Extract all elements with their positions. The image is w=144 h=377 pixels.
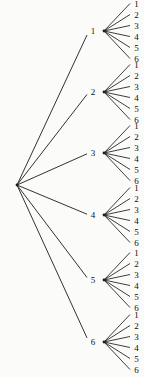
leaf-label-5-3: 3 xyxy=(134,270,139,280)
leaf-label-6-4: 4 xyxy=(134,343,139,353)
leaf-label-4-6: 6 xyxy=(134,238,139,248)
leaf-label-1-1: 1 xyxy=(134,0,139,9)
branch-label-1: 1 xyxy=(91,26,96,36)
leaf-label-6-1: 1 xyxy=(134,310,139,320)
leaf-label-5-2: 2 xyxy=(134,259,139,269)
leaf-label-6-3: 3 xyxy=(134,332,139,342)
leaf-label-4-5: 5 xyxy=(134,227,139,237)
leaf-label-5-1: 1 xyxy=(134,248,139,258)
root-branch-edge-1 xyxy=(17,35,87,185)
leaf-label-2-2: 2 xyxy=(134,71,139,81)
leaf-label-1-3: 3 xyxy=(134,21,139,31)
branch-label-4: 4 xyxy=(91,210,96,220)
leaf-label-4-3: 3 xyxy=(134,205,139,215)
leaf-label-2-3: 3 xyxy=(134,82,139,92)
leaf-label-3-2: 2 xyxy=(134,132,139,142)
root-branch-edge-2 xyxy=(17,94,87,185)
leaf-label-2-5: 5 xyxy=(134,104,139,114)
root-branch-edge-5 xyxy=(17,185,87,278)
leaf-label-6-2: 2 xyxy=(134,321,139,331)
leaf-label-1-4: 4 xyxy=(134,32,139,42)
branch-label-6: 6 xyxy=(91,337,96,347)
branch-label-5: 5 xyxy=(91,275,96,285)
leaf-label-3-3: 3 xyxy=(134,143,139,153)
leaf-label-3-1: 1 xyxy=(134,121,139,131)
root-branch-edge-3 xyxy=(17,154,87,185)
leaf-label-6-6: 6 xyxy=(134,365,139,375)
leaf-label-4-4: 4 xyxy=(134,216,139,226)
root-branch-edge-6 xyxy=(17,185,87,338)
cropped-corner-text: a. xyxy=(1,0,15,4)
leaf-label-4-2: 2 xyxy=(134,194,139,204)
leaf-label-2-1: 1 xyxy=(134,60,139,70)
leaf-label-3-5: 5 xyxy=(134,165,139,175)
leaf-label-5-4: 4 xyxy=(134,281,139,291)
leaf-label-4-1: 1 xyxy=(134,183,139,193)
leaf-label-1-2: 2 xyxy=(134,10,139,20)
cropped-corner-text-value: a. xyxy=(1,2,8,4)
leaf-label-3-4: 4 xyxy=(134,154,139,164)
leaf-label-6-5: 5 xyxy=(134,354,139,364)
leaf-label-5-5: 5 xyxy=(134,292,139,302)
leaf-label-1-5: 5 xyxy=(134,43,139,53)
tree-svg: 1123456212345631234564123456512345661234… xyxy=(0,0,144,377)
leaf-label-2-4: 4 xyxy=(134,93,139,103)
tree-diagram: a. 1123456212345631234564123456512345661… xyxy=(0,0,144,377)
branch-label-3: 3 xyxy=(91,148,96,158)
branch-label-2: 2 xyxy=(91,87,96,97)
